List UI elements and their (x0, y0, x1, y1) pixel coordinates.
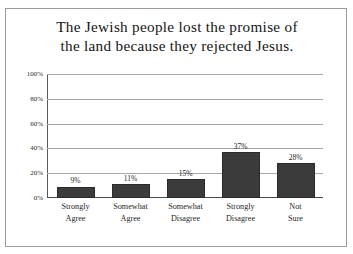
x-category-label: SomewhatAgree (103, 201, 158, 224)
x-axis-category-labels: StronglyAgreeSomewhatAgreeSomewhatDisagr… (48, 201, 323, 235)
y-tick-label-40: 40% (30, 145, 43, 152)
figure-frame: The Jewish people lost the promise of th… (5, 8, 347, 247)
bar-value-label: 11% (124, 175, 137, 183)
bars-layer: 9%11%15%37%28% (48, 74, 323, 198)
chart-title-line-1: The Jewish people lost the promise of (6, 18, 348, 37)
x-category-label: StronglyAgree (48, 201, 103, 224)
x-category-label: StronglyDisagree (213, 201, 268, 224)
y-tick-label-80: 80% (30, 95, 43, 102)
x-category-label: NotSure (268, 201, 323, 224)
bar[interactable] (57, 187, 95, 198)
x-category-label-line: Somewhat (158, 201, 213, 213)
x-category-label-line: Sure (268, 213, 323, 225)
bar[interactable] (222, 152, 260, 198)
x-category-label-line: Agree (48, 213, 103, 225)
chart-title: The Jewish people lost the promise of th… (6, 18, 348, 55)
chart-title-line-2: the land because they rejected Jesus. (6, 37, 348, 56)
bar[interactable] (112, 184, 150, 198)
x-category-label-line: Somewhat (103, 201, 158, 213)
bar[interactable] (277, 163, 315, 198)
y-tick-label-20: 20% (30, 170, 43, 177)
x-category-label-line: Not (268, 201, 323, 213)
x-category-label-line: Disagree (158, 213, 213, 225)
bar-value-label: 28% (289, 154, 303, 162)
bar-slot: 15% (158, 74, 213, 198)
bar-slot: 37% (213, 74, 268, 198)
x-category-label-line: Agree (103, 213, 158, 225)
bar-value-label: 15% (179, 170, 193, 178)
bar-slot: 11% (103, 74, 158, 198)
y-tick-label-60: 60% (30, 120, 43, 127)
bar-slot: 9% (48, 74, 103, 198)
bar[interactable] (167, 179, 205, 198)
y-tick-label-0: 0% (34, 195, 43, 202)
y-tick-label-100: 100% (27, 71, 43, 78)
bar-slot: 28% (268, 74, 323, 198)
x-category-label-line: Disagree (213, 213, 268, 225)
x-category-label: SomewhatDisagree (158, 201, 213, 224)
bar-value-label: 9% (71, 177, 81, 185)
bar-value-label: 37% (234, 143, 248, 151)
plot-area: 0%20%40%60%80%100% 9%11%15%37%28% (47, 74, 323, 198)
x-category-label-line: Strongly (213, 201, 268, 213)
x-category-label-line: Strongly (48, 201, 103, 213)
